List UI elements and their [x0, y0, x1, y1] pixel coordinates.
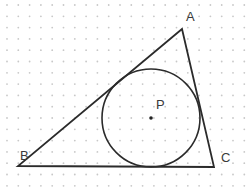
vertex-label-c: C [221, 151, 230, 164]
center-point-p [149, 116, 153, 120]
geometry-figure [0, 0, 246, 190]
triangle-abc [18, 29, 214, 167]
vertex-label-b: B [20, 149, 29, 162]
center-label-p: P [156, 98, 165, 111]
vertex-label-a: A [186, 10, 195, 23]
diagram-canvas: A B C P [0, 0, 246, 190]
